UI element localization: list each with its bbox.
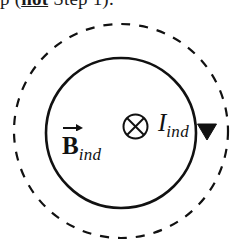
- clockwise-arrowhead-icon: [198, 124, 217, 140]
- b-field-subscript: ind: [79, 145, 102, 164]
- circle-with-cross-icon: [122, 113, 149, 140]
- figure-canvas: p (not Step 1). B ind Iind: [0, 0, 248, 247]
- b-field-label: B ind: [62, 131, 101, 158]
- current-label: Iind: [158, 110, 189, 135]
- current-subscript: ind: [166, 122, 189, 141]
- b-field-vector-wrap: B: [62, 131, 79, 158]
- vector-arrow-icon: [62, 122, 83, 131]
- b-field-symbol: B: [62, 132, 79, 159]
